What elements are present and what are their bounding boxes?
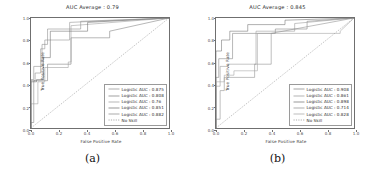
y-tick-mark [214,63,216,64]
x-tick-mark [300,130,301,132]
legend-item[interactable]: Logistic AUC : 0.828 [293,111,349,117]
legend-label: Logistic AUC : 0.714 [307,105,349,110]
y-tick-mark [29,107,31,108]
x-tick-mark [244,130,245,132]
legend-label: Logistic AUC : 0.828 [307,112,349,117]
panel-b-legend: Logistic AUC : 0.908Logistic AUC : 0.861… [289,84,352,126]
panel-b-axes: True Positive Rate False Positive Rate 0… [215,17,355,129]
y-tick-mark [214,85,216,86]
roc-figure: AUC Average : 0.79 True Positive Rate Fa… [0,0,370,183]
legend-label: No Skill [307,118,323,123]
x-tick-mark [328,130,329,132]
legend-item[interactable]: Logistic AUC : 0.882 [108,111,164,117]
y-tick-mark [214,18,216,19]
legend-line-swatch [293,86,305,92]
x-tick-mark [171,130,172,132]
legend-label: Logistic AUC : 0.76 [122,99,162,104]
panel-a-axes: True Positive Rate False Positive Rate 0… [30,17,170,129]
panel-b-ylabel: True Positive Rate [225,37,230,107]
legend-label: Logistic AUC : 0.808 [122,93,164,98]
legend-item[interactable]: No Skill [293,117,349,123]
x-tick-mark [59,130,60,132]
legend-label: Logistic AUC : 0.908 [307,87,349,92]
legend-label: Logistic AUC : 0.898 [307,99,349,104]
panel-b-caption: (b) [185,152,370,165]
y-tick-label: 0.4 [204,83,214,88]
panel-a-title: AUC Average : 0.79 [0,4,185,10]
legend-line-swatch [293,99,305,105]
legend-item[interactable]: Logistic AUC : 0.898 [293,99,349,105]
y-tick-label: 1.0 [19,16,29,21]
y-tick-label: 0.8 [19,38,29,43]
legend-label: Logistic AUC : 0.875 [122,87,164,92]
legend-label: Logistic AUC : 0.851 [122,105,164,110]
panel-a-xlabel: False Positive Rate [31,139,171,144]
panel-a-legend: Logistic AUC : 0.875Logistic AUC : 0.808… [104,84,167,126]
legend-item[interactable]: Logistic AUC : 0.908 [293,86,349,92]
panel-b-title: AUC Average : 0.845 [185,4,370,10]
y-tick-mark [214,40,216,41]
x-tick-mark [87,130,88,132]
y-tick-mark [29,40,31,41]
legend-line-swatch [108,93,120,99]
legend-line-swatch [293,117,305,123]
legend-item[interactable]: Logistic AUC : 0.861 [293,92,349,98]
panel-a-ylabel: True Positive Rate [40,37,45,107]
y-tick-label: 0.6 [204,60,214,65]
y-tick-label: 1.0 [204,16,214,21]
y-tick-label: 0.0 [204,128,214,133]
y-tick-label: 0.0 [19,128,29,133]
panel-b: AUC Average : 0.845 True Positive Rate F… [185,0,370,183]
legend-line-swatch [108,111,120,117]
legend-item[interactable]: Logistic AUC : 0.851 [108,105,164,111]
y-tick-label: 0.2 [204,105,214,110]
plot-a: AUC Average : 0.79 True Positive Rate Fa… [0,0,185,152]
legend-item[interactable]: Logistic AUC : 0.76 [108,99,164,105]
y-tick-label: 0.6 [19,60,29,65]
x-tick-mark [356,130,357,132]
legend-line-swatch [293,93,305,99]
x-tick-mark [115,130,116,132]
panel-a: AUC Average : 0.79 True Positive Rate Fa… [0,0,185,183]
y-tick-mark [29,130,31,131]
legend-label: No Skill [122,118,138,123]
y-tick-label: 0.2 [19,105,29,110]
legend-line-swatch [108,105,120,111]
legend-line-swatch [108,86,120,92]
legend-line-swatch [108,99,120,105]
y-tick-mark [214,130,216,131]
legend-item[interactable]: Logistic AUC : 0.808 [108,92,164,98]
legend-item[interactable]: Logistic AUC : 0.714 [293,105,349,111]
legend-line-swatch [293,111,305,117]
legend-item[interactable]: Logistic AUC : 0.875 [108,86,164,92]
x-tick-mark [31,130,32,132]
legend-label: Logistic AUC : 0.861 [307,93,349,98]
x-tick-mark [272,130,273,132]
x-tick-mark [143,130,144,132]
panel-b-xlabel: False Positive Rate [216,139,356,144]
y-tick-mark [29,63,31,64]
legend-item[interactable]: No Skill [108,117,164,123]
legend-line-swatch [293,105,305,111]
y-tick-mark [29,85,31,86]
y-tick-mark [214,107,216,108]
legend-label: Logistic AUC : 0.882 [122,112,164,117]
panel-a-caption: (a) [0,152,185,165]
y-tick-mark [29,18,31,19]
y-tick-label: 0.4 [19,83,29,88]
legend-line-swatch [108,117,120,123]
x-tick-mark [216,130,217,132]
plot-b: AUC Average : 0.845 True Positive Rate F… [185,0,370,152]
y-tick-label: 0.8 [204,38,214,43]
